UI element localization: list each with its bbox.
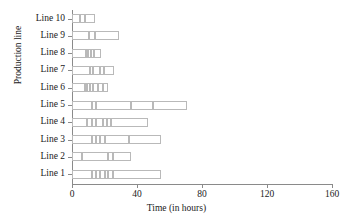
bar-segment [72, 49, 86, 58]
bar-row [0, 118, 353, 127]
bar-segment [113, 170, 162, 179]
bar-segment [82, 152, 108, 161]
x-axis-tick [202, 184, 203, 188]
bar-segment [104, 66, 115, 75]
bar-segment [72, 135, 92, 144]
x-axis-title: Time (in hours) [0, 203, 353, 213]
bar-segment [72, 14, 80, 23]
bar-row [0, 31, 353, 40]
bar-segment [72, 152, 82, 161]
bar-segment [153, 101, 187, 110]
bar-row [0, 152, 353, 161]
x-axis-tick-label: 160 [312, 189, 352, 199]
bar-segment [95, 31, 119, 40]
bar-chart: Production line Time (in hours) 04080120… [0, 0, 353, 220]
bar-row [0, 66, 353, 75]
bar-segment [72, 83, 85, 92]
bar-row [0, 101, 353, 110]
bar-segment [103, 83, 108, 92]
x-axis-tick [137, 184, 138, 188]
bar-segment [131, 101, 154, 110]
bar-row [0, 14, 353, 23]
bar-row [0, 170, 353, 179]
x-axis-tick-label: 80 [182, 189, 222, 199]
x-axis-tick [72, 184, 73, 188]
x-axis-tick [332, 184, 333, 188]
bar-segment [72, 31, 89, 40]
bar-row [0, 49, 353, 58]
bar-segment [94, 49, 101, 58]
x-axis-tick [267, 184, 268, 188]
bar-segment [72, 118, 87, 127]
bar-row [0, 83, 353, 92]
x-axis-tick-label: 40 [117, 189, 157, 199]
bar-row [0, 135, 353, 144]
bar-segment [96, 101, 130, 110]
bar-segment [72, 170, 92, 179]
bar-segment [85, 14, 95, 23]
bar-segment [72, 101, 92, 110]
bar-segment [111, 118, 148, 127]
bar-segment [72, 66, 90, 75]
x-axis-tick-label: 120 [247, 189, 287, 199]
x-axis-tick-label: 0 [52, 189, 92, 199]
bar-segment [113, 152, 131, 161]
bar-segment [129, 135, 162, 144]
bar-segment [105, 135, 129, 144]
